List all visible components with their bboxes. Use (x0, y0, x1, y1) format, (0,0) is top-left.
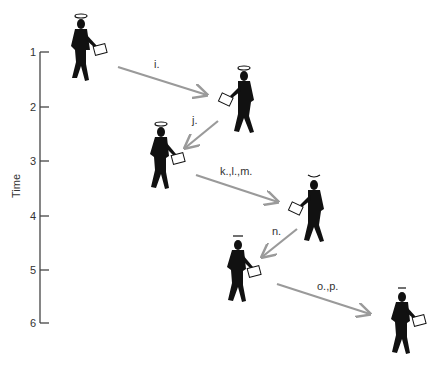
briefcase-icon (247, 266, 261, 278)
arrow-label-i: i. (154, 58, 160, 70)
arrow-label-j: j. (192, 114, 198, 126)
arrow-klm (196, 175, 278, 202)
figure-businessman-6 (384, 284, 431, 359)
arrow-label-n: n. (272, 225, 281, 237)
arrow-label-klm: k.,l.,m. (220, 165, 252, 177)
figure-businessman-2 (216, 64, 266, 139)
arrow-i (118, 67, 207, 95)
briefcase-icon (288, 202, 303, 215)
halo-icon (238, 66, 250, 70)
arrow-label-op: o.,p. (317, 280, 338, 292)
partial-halo-icon (308, 175, 320, 177)
figure-businessman-1 (64, 12, 114, 87)
time-diagram: 1 2 3 4 5 6 Time i. j. k.,l.,m. n. o.,p. (0, 0, 431, 369)
figure-businessman-3 (141, 120, 191, 195)
figure-businessman-4 (286, 172, 336, 247)
halo-icon (75, 14, 87, 18)
figure-businessman-5 (216, 232, 266, 307)
briefcase-icon (218, 93, 233, 106)
halo-icon (155, 122, 167, 126)
